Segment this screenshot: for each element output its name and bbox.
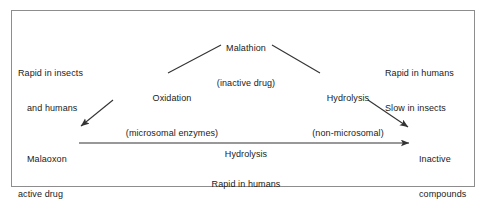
annotation-right-top-line2: Slow in insects bbox=[385, 103, 454, 115]
node-hydrolysis-nonmicrosomal-line2: (non-microsomal) bbox=[312, 128, 383, 140]
annotation-left-top: Rapid in insects and humans bbox=[18, 45, 83, 137]
annotation-right-top-line1: Rapid in humans bbox=[385, 68, 454, 80]
node-malaoxon-line1: Malaoxon bbox=[18, 154, 67, 166]
annotation-left-top-line1: Rapid in insects bbox=[18, 68, 83, 80]
diagram-canvas: Malathion (inactive drug) Oxidation (mic… bbox=[0, 0, 488, 203]
node-oxidation-line1: Oxidation bbox=[126, 93, 218, 105]
node-hydrolysis-nonmicrosomal-line1: Hydrolysis bbox=[312, 93, 383, 105]
annotation-left-top-line2: and humans bbox=[18, 103, 83, 115]
annotation-bottom: Rapid in humans Slow in insects bbox=[212, 156, 281, 203]
node-oxidation: Oxidation (microsomal enzymes) bbox=[126, 70, 218, 162]
node-malaoxon: Malaoxon active drug bbox=[18, 131, 67, 203]
node-inactive-compounds-line1: Inactive bbox=[419, 154, 466, 166]
node-inactive-compounds-line2: compounds bbox=[419, 189, 466, 201]
node-malathion-line1: Malathion bbox=[217, 43, 275, 55]
node-malathion-line2: (inactive drug) bbox=[217, 78, 275, 90]
annotation-bottom-line1: Rapid in humans bbox=[212, 179, 281, 191]
node-oxidation-line2: (microsomal enzymes) bbox=[126, 128, 218, 140]
node-inactive-compounds: Inactive compounds bbox=[419, 131, 466, 203]
annotation-right-top: Rapid in humans Slow in insects bbox=[385, 45, 454, 137]
node-malaoxon-line2: active drug bbox=[18, 189, 67, 201]
node-hydrolysis-nonmicrosomal: Hydrolysis (non-microsomal) bbox=[312, 70, 383, 162]
node-malathion: Malathion (inactive drug) bbox=[217, 20, 275, 112]
